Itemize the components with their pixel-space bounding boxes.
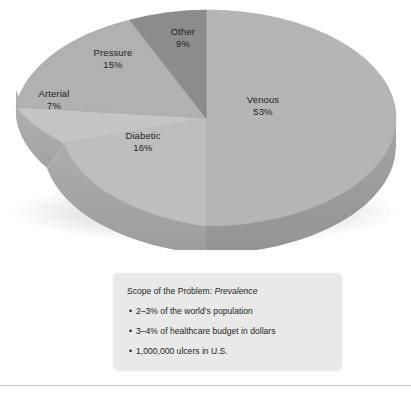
pie-label-arterial-name: Arterial: [16, 88, 92, 100]
callout-list-item: • 3–4% of healthcare budget in dollars: [129, 326, 328, 337]
pie-label-pressure-value: 15%: [72, 59, 154, 71]
callout-title: Scope of the Problem: Prevalence: [127, 286, 328, 297]
bullet-icon: •: [129, 326, 136, 337]
callout-box: Scope of the Problem: Prevalence • 2–3% …: [113, 273, 342, 370]
callout-title-emphasis: Prevalence: [214, 286, 257, 296]
pie-label-venous: Venous 53%: [218, 94, 308, 117]
callout-item-text: 2–3% of the world’s population: [136, 306, 253, 317]
pie-label-other: Other 9%: [152, 26, 214, 49]
pie-label-arterial-value: 7%: [16, 100, 92, 112]
callout-item-text: 3–4% of healthcare budget in dollars: [136, 326, 276, 337]
bullet-icon: •: [129, 306, 136, 317]
pie-label-diabetic: Diabetic 16%: [98, 130, 188, 153]
callout-list-item: • 2–3% of the world’s population: [129, 306, 328, 317]
pie-label-diabetic-name: Diabetic: [98, 130, 188, 142]
callout-title-lead: Scope of the Problem:: [127, 286, 214, 296]
pie-label-pressure: Pressure 15%: [72, 47, 154, 70]
pie-label-arterial: Arterial 7%: [16, 88, 92, 111]
pie-label-pressure-name: Pressure: [72, 47, 154, 59]
pie-chart: Venous 53% Diabetic 16% Arterial 7% Pres…: [0, 0, 411, 250]
bullet-icon: •: [129, 346, 136, 357]
callout-list-item: • 1,000,000 ulcers in U.S.: [129, 346, 328, 357]
pie-label-venous-value: 53%: [218, 106, 308, 118]
footer-divider: [0, 385, 411, 386]
callout-item-text: 1,000,000 ulcers in U.S.: [136, 346, 228, 357]
pie-label-other-name: Other: [152, 26, 214, 38]
pie-label-other-value: 9%: [152, 38, 214, 50]
pie-label-venous-name: Venous: [218, 94, 308, 106]
figure-3d-pie-with-callout: Venous 53% Diabetic 16% Arterial 7% Pres…: [0, 0, 411, 394]
pie-label-diabetic-value: 16%: [98, 142, 188, 154]
